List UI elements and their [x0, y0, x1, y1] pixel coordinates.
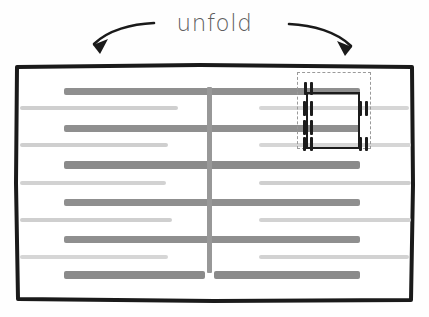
text-line-bold-12: [64, 236, 360, 243]
selection-tick-2: [303, 101, 306, 116]
selection-bracket-1: [306, 147, 360, 149]
curved-arrow-left-icon: [62, 16, 158, 64]
selection-tick-3: [310, 101, 313, 116]
vertical-fold-line: [207, 87, 212, 273]
selection-tick-6: [303, 137, 306, 151]
text-line-bold-15: [64, 271, 205, 279]
selection-tick-9: [365, 101, 368, 116]
dashed-selection-box[interactable]: [297, 72, 371, 149]
selection-tick-0: [304, 82, 307, 95]
text-line-bold-9: [64, 199, 360, 206]
selection-tick-11: [365, 137, 368, 151]
text-line-light-11: [259, 218, 411, 222]
selection-tick-7: [310, 137, 313, 151]
text-line-light-8: [259, 181, 411, 185]
text-line-light-14: [259, 255, 409, 259]
selection-tick-10: [359, 137, 362, 151]
selection-bracket-2: [306, 92, 308, 149]
text-line-light-10: [20, 218, 172, 222]
selection-tick-5: [310, 120, 313, 135]
page-content: [14, 63, 415, 303]
text-line-light-13: [20, 255, 168, 259]
unfold-diagram: unfold: [0, 0, 429, 317]
text-line-light-1: [20, 106, 178, 110]
selection-tick-1: [310, 82, 313, 95]
text-line-bold-16: [214, 271, 360, 279]
text-line-light-7: [20, 181, 166, 185]
selection-bracket-0: [306, 92, 360, 94]
text-line-light-4: [20, 143, 168, 147]
text-line-bold-6: [64, 161, 360, 169]
selection-tick-4: [303, 120, 306, 135]
curved-arrow-right-icon: [283, 16, 379, 64]
selection-tick-8: [359, 101, 362, 116]
